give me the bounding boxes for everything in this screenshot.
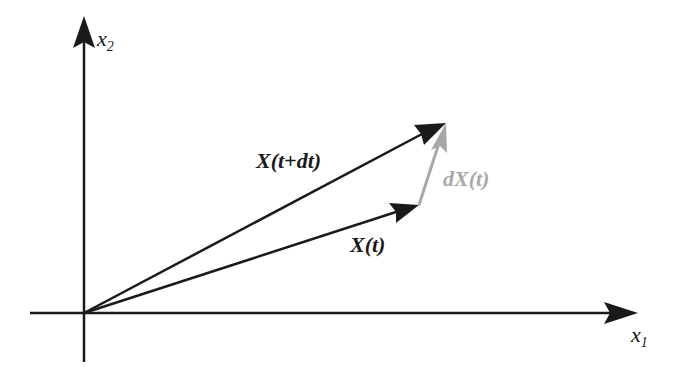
vector-x-t-plus-dt-label: X(t+dt) (256, 148, 321, 174)
vector-x-t-label: X(t) (350, 232, 385, 258)
x2-label-text: x (97, 26, 107, 51)
x1-axis-label: x1 (631, 322, 648, 351)
vector-diagram (0, 0, 678, 378)
vector-x-t (84, 203, 419, 313)
x1-axis (30, 302, 638, 324)
x1-label-text: x (631, 322, 641, 347)
x1-label-subscript: 1 (641, 335, 648, 350)
x2-axis-label: x2 (97, 26, 114, 55)
vector-dx-t-label: dX(t) (443, 166, 489, 192)
x2-label-subscript: 2 (107, 39, 114, 54)
